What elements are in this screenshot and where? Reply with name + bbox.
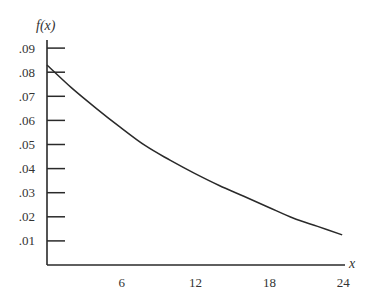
y-tick-label: .06	[19, 113, 36, 128]
y-axis-title: f(x)	[36, 18, 56, 34]
y-tick-label: .08	[19, 65, 35, 80]
x-tick-label: 24	[337, 275, 351, 290]
chart: .01.02.03.04.05.06.07.08.09 6121824 f(x)…	[0, 0, 368, 300]
x-axis-ticks: 6121824	[119, 275, 351, 290]
x-axis-title: x	[348, 256, 356, 271]
y-tick-label: .03	[19, 185, 35, 200]
x-tick-label: 18	[263, 275, 276, 290]
x-tick-label: 12	[189, 275, 202, 290]
y-tick-label: .05	[19, 137, 35, 152]
y-tick-label: .04	[19, 161, 36, 176]
y-tick-label: .09	[19, 41, 35, 56]
y-tick-label: .07	[19, 89, 36, 104]
x-tick-label: 6	[119, 275, 126, 290]
y-axis-ticks: .01.02.03.04.05.06.07.08.09	[19, 41, 65, 249]
data-line-fx	[47, 65, 342, 235]
y-tick-label: .02	[19, 209, 35, 224]
y-tick-label: .01	[19, 233, 35, 248]
